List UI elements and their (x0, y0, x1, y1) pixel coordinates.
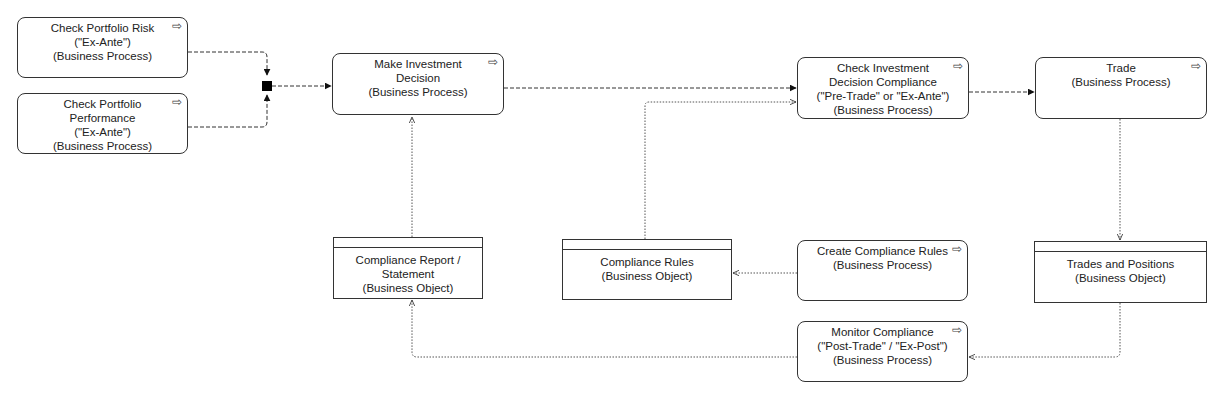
node-label-line: Performance (18, 111, 187, 125)
flow-perf-to-junction (188, 95, 267, 127)
node-label-line: Compliance Report / Statement (334, 253, 482, 281)
node-label-line: (Business Object) (334, 281, 482, 295)
node-label-line: (Business Object) (563, 269, 731, 283)
node-label-line: (Business Object) (1035, 271, 1206, 285)
node-label-line: ("Post-Trade" / "Ex-Post") (798, 339, 967, 353)
object-trades-positions[interactable]: Trades and Positions(Business Object) (1034, 241, 1207, 303)
node-label-line: (Business Process) (333, 85, 503, 99)
object-compliance-rules[interactable]: Compliance Rules(Business Object) (562, 239, 732, 300)
access-monitor-to-report (412, 300, 797, 357)
process-arrow-icon: ⇨ (952, 324, 962, 336)
node-label-line: Create Compliance Rules (798, 244, 967, 258)
node-label-line: Check Investment (798, 61, 968, 75)
node-label-line: (Business Process) (18, 49, 187, 63)
node-label-line: ("Pre-Trade" or "Ex-Ante") (798, 89, 968, 103)
object-label: Trades and Positions(Business Object) (1035, 252, 1206, 285)
node-label-line: Trade (1036, 61, 1206, 75)
process-arrow-icon: ⇨ (1191, 60, 1201, 72)
process-trade[interactable]: ⇨Trade(Business Process) (1035, 57, 1207, 119)
object-header-band (563, 240, 731, 250)
node-label-line: ("Ex-Ante") (18, 125, 187, 139)
node-label-line: Check Portfolio (18, 97, 187, 111)
process-make-decision[interactable]: ⇨Make InvestmentDecision(Business Proces… (332, 53, 504, 115)
object-label: Compliance Report / Statement(Business O… (334, 248, 482, 295)
node-label-line: (Business Process) (798, 353, 967, 367)
node-label-line: (Business Process) (1036, 75, 1206, 89)
node-label-line: (Business Process) (798, 258, 967, 272)
object-label: Compliance Rules(Business Object) (563, 250, 731, 283)
node-label-line: Check Portfolio Risk (18, 21, 187, 35)
process-check-perf[interactable]: ⇨Check PortfolioPerformance("Ex-Ante")(B… (17, 93, 188, 154)
node-label-line: Make Investment (333, 57, 503, 71)
process-create-rules[interactable]: ⇨Create Compliance Rules(Business Proces… (797, 240, 968, 301)
process-arrow-icon: ⇨ (953, 60, 963, 72)
node-label-line: (Business Process) (18, 139, 187, 153)
object-header-band (1035, 242, 1206, 252)
object-header-band (334, 238, 482, 248)
node-label-line: ("Ex-Ante") (18, 35, 187, 49)
flow-risk-to-junction (188, 52, 267, 75)
object-compliance-report[interactable]: Compliance Report / Statement(Business O… (333, 237, 483, 299)
node-label-line: Monitor Compliance (798, 325, 967, 339)
process-monitor[interactable]: ⇨Monitor Compliance("Post-Trade" / "Ex-P… (797, 321, 968, 382)
node-label-line: Decision Compliance (798, 75, 968, 89)
node-label-line: Decision (333, 71, 503, 85)
process-arrow-icon: ⇨ (172, 20, 182, 32)
process-arrow-icon: ⇨ (488, 56, 498, 68)
access-positions-to-monitor (969, 303, 1120, 357)
process-arrow-icon: ⇨ (172, 96, 182, 108)
process-check-risk[interactable]: ⇨Check Portfolio Risk("Ex-Ante")(Busines… (17, 17, 188, 78)
node-label-line: Trades and Positions (1035, 257, 1206, 271)
process-arrow-icon: ⇨ (952, 243, 962, 255)
access-rules-to-compliance (645, 102, 796, 239)
process-check-compliance[interactable]: ⇨Check InvestmentDecision Compliance("Pr… (797, 57, 969, 119)
and-junction (262, 81, 272, 91)
node-label-line: (Business Process) (798, 103, 968, 117)
node-label-line: Compliance Rules (563, 255, 731, 269)
